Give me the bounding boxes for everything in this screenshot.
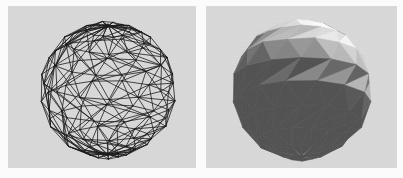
shaded-sphere-canvas — [206, 6, 397, 168]
panel-wireframe-sphere: Wireframe mesh — [8, 6, 196, 168]
figure-root: Wireframe mesh Flat-shaded facets — [0, 0, 403, 178]
wireframe-sphere-canvas — [8, 6, 196, 168]
panel-shaded-sphere: Flat-shaded facets — [206, 6, 397, 168]
